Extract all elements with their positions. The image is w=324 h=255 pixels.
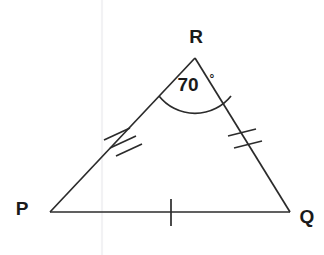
- triangle-diagram-svg: P Q R 70 °: [0, 0, 324, 255]
- tick-mark-rq-2: [234, 141, 262, 148]
- vertex-label-p: P: [16, 198, 29, 219]
- geometry-figure: P Q R 70 °: [0, 0, 324, 255]
- angle-value-r: 70: [177, 74, 198, 95]
- tick-mark-pr-2: [110, 136, 136, 148]
- tick-mark-pr-3: [116, 144, 142, 156]
- tick-mark-pr-1: [104, 128, 130, 140]
- vertex-label-r: R: [189, 26, 203, 47]
- tick-group-pr: [104, 128, 142, 156]
- degree-symbol-icon: °: [210, 72, 215, 86]
- side-pr: [50, 58, 195, 212]
- vertex-label-q: Q: [300, 206, 315, 227]
